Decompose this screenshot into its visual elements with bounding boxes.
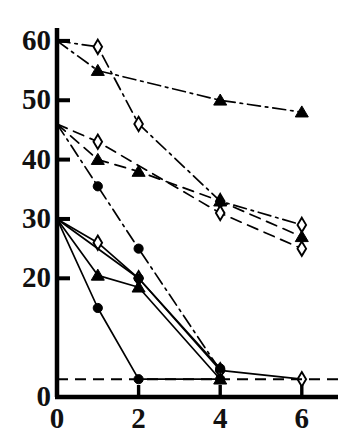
- series-line: [57, 41, 302, 112]
- marker-filled-circle: [134, 244, 143, 253]
- y-tick-label-60: 60: [22, 26, 51, 55]
- y-tick-label-40: 40: [22, 145, 51, 174]
- marker-open-diamond: [94, 40, 103, 54]
- marker-open-diamond: [298, 241, 307, 255]
- marker-open-diamond: [216, 206, 225, 220]
- series-6-open-diamond-solid-30: [57, 219, 306, 386]
- y-tick-label-50: 50: [22, 85, 51, 114]
- chart-container: 02030405060 0246: [0, 0, 346, 445]
- series-7-filled-triangle-solid-30: [57, 219, 227, 384]
- x-tick-label-6: 6: [282, 404, 322, 433]
- x-tick-label-4: 4: [200, 404, 240, 433]
- x-tick-label-2: 2: [119, 404, 159, 433]
- y-tick-label-30: 30: [22, 204, 51, 233]
- marker-filled-triangle: [91, 269, 104, 280]
- marker-filled-circle: [93, 182, 102, 191]
- marker-filled-triangle: [91, 64, 104, 75]
- marker-filled-circle: [216, 364, 225, 373]
- series-9-filled-circle-solid-30b: [57, 219, 225, 373]
- series-line: [57, 219, 220, 379]
- marker-filled-triangle: [295, 231, 308, 242]
- series-line: [57, 219, 220, 369]
- series-2-filled-triangle-dashdot-60: [57, 41, 308, 117]
- marker-filled-circle: [134, 274, 143, 283]
- marker-open-diamond: [94, 135, 103, 149]
- series-line: [57, 219, 220, 379]
- series-5-filled-circle-dashdot-46: [57, 124, 225, 375]
- x-tick-label-0: 0: [37, 404, 77, 433]
- marker-filled-circle: [93, 303, 102, 312]
- y-tick-label-20: 20: [22, 263, 51, 292]
- chart-plot-area: [0, 0, 346, 445]
- series-layer: [57, 40, 308, 387]
- series-8-filled-circle-solid-30: [57, 219, 225, 384]
